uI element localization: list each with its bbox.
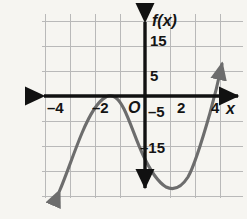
y-tick-minus-15: –15 [140,140,165,155]
y-tick-15: 15 [150,33,167,48]
graph-canvas [0,0,247,219]
x-tick-minus-4: –4 [47,100,64,115]
exercise-figure: 14. [0,0,247,219]
y-tick-5: 5 [150,68,158,83]
x-tick-minus-2: –2 [92,100,109,115]
origin-label: O [128,100,140,116]
y-axis-label: f(x) [152,13,177,29]
x-axis-label: x [226,101,235,117]
x-tick-4: 4 [211,100,219,115]
y-tick-minus-5: –5 [148,104,165,119]
x-tick-2: 2 [177,100,185,115]
